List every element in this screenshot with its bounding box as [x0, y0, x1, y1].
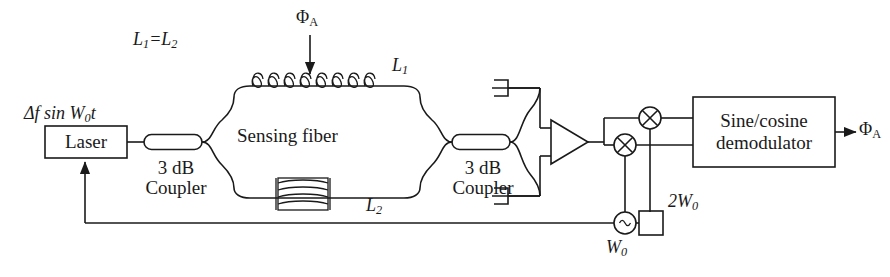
demodulator-line2: demodulator [716, 132, 812, 154]
laser-label-text: Laser [65, 131, 107, 153]
coupler-right-line2: Coupler [442, 178, 524, 198]
fiber-arm-upper [234, 86, 420, 97]
path-equality-label: L1=L2 [133, 30, 177, 51]
oscillator-freq-label: W0 [606, 238, 627, 259]
reference-coil-spool [276, 178, 330, 210]
coupler-left-line2: Coupler [135, 178, 217, 198]
amplifier-triangle [551, 120, 588, 164]
coupler-left-line1: 3 dB [135, 158, 217, 178]
arm-lower-symbol: L [366, 195, 376, 215]
mixer-lower [614, 134, 636, 156]
phi-a-input-subscript: A [309, 15, 318, 29]
path-equality-sub2: 2 [171, 37, 177, 51]
path-equality-eq: =L [149, 29, 171, 49]
laser-drive-text: Δf sin W [24, 103, 85, 123]
laser-drive-tail: t [91, 103, 96, 123]
frequency-doubler-box [639, 211, 663, 235]
demodulator-line1: Sine/cosine [716, 110, 812, 132]
coupler-left-body [144, 135, 202, 150]
arm-upper-subscript: 1 [402, 63, 408, 77]
oscillator-freq-symbol: W [606, 237, 621, 257]
figure-canvas: Δf sin W0t Laser 3 dB Coupler 3 dB Coupl… [0, 0, 890, 277]
doubler-freq-label: 2W0 [668, 192, 698, 213]
laser-drive-label: Δf sin W0t [24, 104, 96, 125]
sensing-fiber-text: Sensing fiber [237, 125, 338, 146]
arm-upper-label: L1 [392, 56, 408, 77]
coupler-right-body [452, 135, 510, 150]
doubler-freq-subscript: 0 [692, 199, 698, 213]
wire-coupler-right-upper [510, 88, 540, 142]
mixer-upper [639, 107, 661, 129]
phi-a-input-symbol: Φ [296, 7, 309, 27]
demodulator-label: Sine/cosine demodulator [693, 97, 835, 167]
phi-a-input-label: ΦA [296, 8, 318, 29]
arm-lower-label: L2 [366, 196, 382, 217]
phi-a-output-symbol: Φ [859, 119, 872, 139]
phi-a-output-subscript: A [872, 127, 881, 141]
sensing-fiber-label: Sensing fiber [237, 126, 338, 146]
oscillator-freq-subscript: 0 [621, 245, 627, 259]
coupler-right-label: 3 dB Coupler [442, 158, 524, 198]
path-equality-l1: L [133, 29, 143, 49]
doubler-freq-symbol: 2W [668, 191, 692, 211]
laser-box-label: Laser [45, 126, 127, 158]
arm-upper-symbol: L [392, 55, 402, 75]
wire-upper-to-coupler-right [420, 97, 452, 142]
local-oscillator [614, 212, 636, 234]
phi-a-output-label: ΦA [859, 120, 881, 141]
coupler-left-label: 3 dB Coupler [135, 158, 217, 198]
arm-lower-subscript: 2 [376, 203, 382, 217]
wire-coupler-left-upper [202, 97, 234, 142]
coupler-right-line1: 3 dB [442, 158, 524, 178]
